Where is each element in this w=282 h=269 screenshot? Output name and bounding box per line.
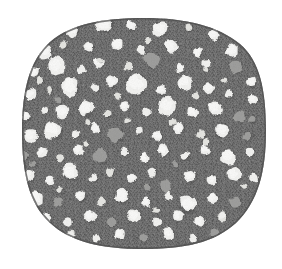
specimen-micrograph-image <box>0 0 282 269</box>
figure-root: Grayscale micrograph of a rounded specim… <box>0 0 282 269</box>
film-grain-overlay <box>14 10 272 258</box>
specimen-body <box>14 10 272 258</box>
